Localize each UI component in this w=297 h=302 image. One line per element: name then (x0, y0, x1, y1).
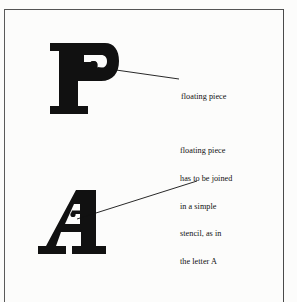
figure-page: floating piece floating piece has to be … (0, 0, 297, 302)
annotation-text-line: stencil, as in (180, 229, 232, 238)
annotation-text-line: floating piece (180, 146, 232, 155)
frame-right-rule (283, 9, 284, 302)
letter-p-artwork (48, 40, 122, 118)
annotation-text-line: the letter A (180, 257, 232, 266)
annotation-text-line: floating piece (181, 92, 226, 101)
frame-left-rule (4, 9, 5, 302)
annotation-joined-piece: floating piece has to be joined in a sim… (180, 128, 232, 284)
frame-top-rule (4, 9, 284, 10)
annotation-floating-piece: floating piece (181, 74, 226, 120)
annotation-text-line: in a simple (180, 202, 232, 211)
annotation-text-line: has to be joined (180, 174, 232, 183)
letter-a-artwork (36, 188, 120, 258)
